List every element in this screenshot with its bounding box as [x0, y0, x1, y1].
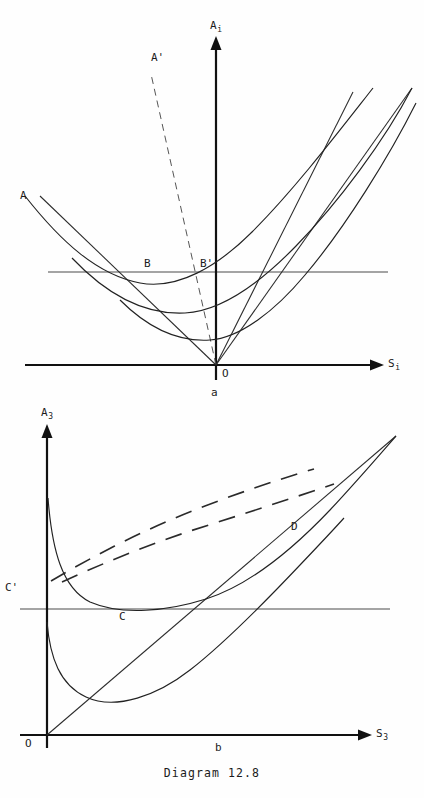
label-a-point-A: A: [20, 190, 27, 201]
y-axis-arrow-a: [211, 36, 222, 50]
label-b-point-C: C: [119, 611, 126, 622]
label-b-y-axis: A3: [41, 407, 53, 421]
label-a-point-B: B: [144, 258, 151, 269]
label-b-point-C-prime: C': [5, 582, 18, 593]
diagram-page: A A' B B' O Ai Si a: [0, 0, 424, 798]
curve-lower-a: [120, 103, 416, 340]
curve-upper-b: [48, 436, 396, 610]
panel-b: C' C D O A3 S3 b: [0, 400, 424, 760]
panel-a: A A' B B' O Ai Si a: [0, 0, 424, 400]
panel-label-b: b: [215, 741, 222, 754]
panel-b-svg: [0, 400, 424, 760]
curve-middle-a: [72, 88, 412, 313]
ray-origin-d: [47, 436, 396, 735]
label-a-x-axis: Si: [388, 358, 400, 372]
curve-lower-b: [47, 518, 344, 702]
label-a-y-axis: Ai: [210, 20, 222, 34]
panel-label-a: a: [211, 386, 218, 399]
dashed-curve-lower-b: [51, 469, 314, 581]
ray-a-prime: [151, 74, 216, 365]
x-axis-arrow-a: [370, 360, 384, 371]
label-b-point-D: D: [291, 521, 298, 532]
panel-a-svg: [0, 0, 424, 400]
y-axis-arrow-b: [42, 424, 53, 438]
label-a-point-A-prime: A': [151, 52, 164, 63]
figure-caption: Diagram 12.8: [0, 766, 424, 780]
ray-tangent-1: [216, 92, 353, 365]
label-b-x-axis: S3: [376, 728, 388, 742]
label-a-origin: O: [222, 368, 229, 379]
x-axis-arrow-b: [358, 730, 372, 741]
dashed-curve-upper-b: [62, 484, 334, 582]
label-a-point-B-prime: B': [200, 258, 213, 269]
label-b-origin: O: [25, 738, 32, 749]
